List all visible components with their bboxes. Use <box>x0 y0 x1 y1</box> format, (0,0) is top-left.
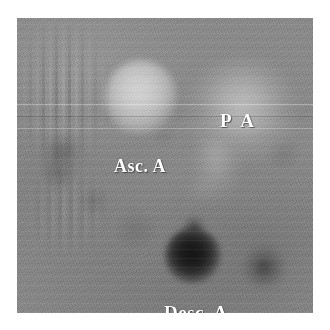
scan-image: P A Asc. A Desc. A <box>17 18 313 313</box>
annotation-label-descending-aorta: Desc. A <box>164 303 228 313</box>
scan-streak-line <box>17 116 313 117</box>
annotation-label-pulmonary-artery: P A <box>220 111 257 130</box>
scan-streak-line <box>17 104 313 105</box>
scan-streak-line <box>17 128 313 129</box>
axial-chest-scan-viewer: P A Asc. A Desc. A <box>0 0 330 330</box>
annotation-label-ascending-aorta: Asc. A <box>114 157 166 175</box>
